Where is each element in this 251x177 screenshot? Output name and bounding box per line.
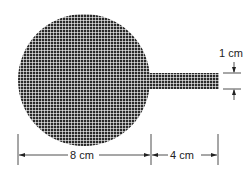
handle-length-label: 4 cm (170, 149, 194, 161)
shape (18, 14, 219, 146)
diameter-label: 8 cm (70, 149, 94, 161)
diagram-canvas: 8 cm 4 cm 1 cm (0, 0, 251, 177)
handle-width-label: 1 cm (219, 47, 243, 59)
rectangular-handle (145, 73, 219, 89)
circle-body (18, 14, 150, 146)
dimension-1cm (223, 62, 241, 100)
